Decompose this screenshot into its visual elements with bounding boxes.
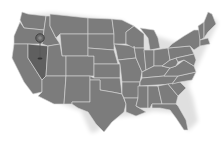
state-mississippi[interactable] (136, 86, 148, 108)
state-kansas[interactable] (94, 64, 120, 78)
state-colorado[interactable] (66, 56, 94, 76)
state-south-dakota[interactable] (88, 34, 114, 50)
state-arkansas[interactable] (122, 82, 140, 98)
state-north-dakota[interactable] (88, 18, 114, 34)
state-new-mexico[interactable] (64, 76, 90, 104)
pin-center (38, 36, 42, 40)
state-wyoming[interactable] (60, 34, 88, 56)
pin-base (38, 58, 43, 60)
state-arizona[interactable] (38, 76, 66, 104)
us-map (0, 0, 223, 144)
